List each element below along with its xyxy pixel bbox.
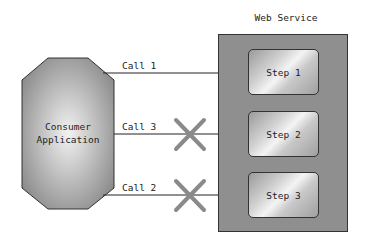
consumer-label-line2: Application [22, 133, 114, 146]
consumer-application-label: Consumer Application [22, 120, 114, 146]
blocked-cross-icon [176, 181, 204, 210]
blocked-cross-icon [176, 120, 204, 149]
consumer-label-line1: Consumer [22, 120, 114, 133]
call-2-label: Call 2 [122, 182, 156, 193]
call-3-label: Call 3 [122, 121, 156, 132]
call-1-label: Call 1 [122, 60, 156, 71]
